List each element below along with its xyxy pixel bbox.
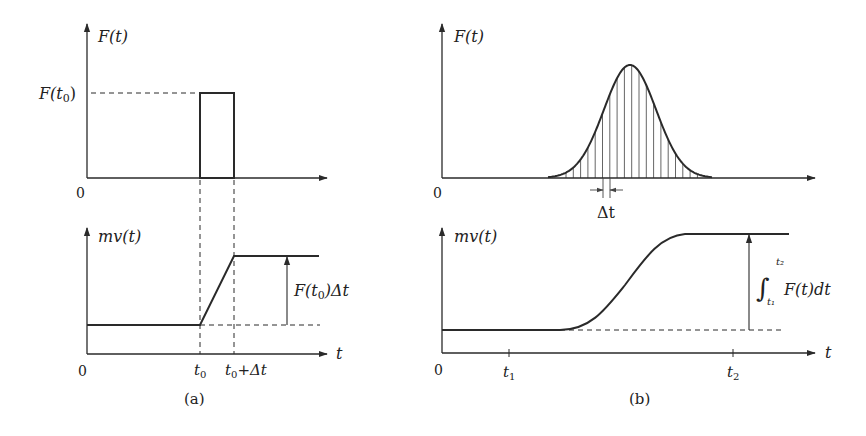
tick-label-t1: t1 bbox=[503, 363, 515, 382]
force-level-label: F(t0) bbox=[38, 84, 76, 105]
y-axis-label: F(t) bbox=[97, 27, 128, 46]
momentum-curve bbox=[87, 256, 319, 325]
origin-label: 0 bbox=[433, 185, 442, 201]
integral-upper-limit: t₂ bbox=[776, 256, 784, 267]
panel-a-force-plot: F(t) 0 F(t0) bbox=[38, 24, 327, 201]
tick-label-t0: t0 bbox=[194, 361, 206, 380]
x-axis-label: t bbox=[336, 344, 343, 363]
integral-body: F(t)dt bbox=[783, 280, 831, 299]
force-pulse-rectangle bbox=[200, 93, 234, 178]
panel-a-momentum-plot: mv(t) t 0 F(t0)Δt t0 t0+Δt bbox=[78, 227, 350, 380]
panel-b-momentum-plot: ∫ t₂ t₁ F(t)dt mv(t) t 0 t1 t2 bbox=[434, 227, 832, 382]
panel-a-caption: (a) bbox=[184, 390, 205, 408]
panel-b-force-plot: Δt F(t) 0 bbox=[433, 24, 815, 222]
tick-label-t2: t2 bbox=[727, 363, 739, 382]
integral-lower-limit: t₁ bbox=[767, 296, 775, 307]
origin-label: 0 bbox=[76, 185, 85, 201]
delta-t-label: Δt bbox=[597, 203, 616, 222]
origin-label: 0 bbox=[78, 363, 87, 379]
bell-force-curve bbox=[548, 65, 712, 177]
panel-a: F(t) 0 F(t0) mv(t) t 0 F(t0)Δt t0 t0+Δt … bbox=[38, 24, 350, 408]
tick-label-t0-plus-dt: t0+Δt bbox=[225, 361, 268, 380]
origin-label: 0 bbox=[434, 362, 443, 378]
panel-b-caption: (b) bbox=[629, 390, 650, 408]
y-axis-label: mv(t) bbox=[454, 227, 497, 246]
x-axis-label: t bbox=[825, 343, 832, 362]
y-axis-label: mv(t) bbox=[98, 227, 141, 246]
momentum-s-curve bbox=[442, 234, 789, 330]
area-hatching bbox=[566, 65, 697, 178]
impulse-momentum-diagram: F(t) 0 F(t0) mv(t) t 0 F(t0)Δt t0 t0+Δt … bbox=[0, 0, 866, 436]
impulse-label: F(t0)Δt bbox=[293, 281, 350, 302]
panel-b: Δt F(t) 0 ∫ t₂ t₁ F(t)dt mv(t) t 0 t1 t2… bbox=[433, 24, 832, 408]
y-axis-label: F(t) bbox=[453, 27, 484, 46]
